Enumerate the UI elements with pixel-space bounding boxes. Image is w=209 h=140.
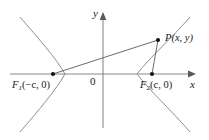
- segment-f2-p: [152, 40, 158, 74]
- focus-left-point: [51, 72, 55, 76]
- focus-right-point: [150, 72, 154, 76]
- segment-f1-p: [53, 40, 158, 74]
- y-axis-label: y: [93, 8, 98, 19]
- x-axis-label: x: [190, 79, 195, 90]
- focus-left-label: F1(−c, 0): [12, 80, 50, 92]
- y-axis-arrow-icon: [100, 12, 107, 20]
- origin-label: 0: [90, 76, 96, 87]
- x-axis-arrow-icon: [188, 71, 196, 78]
- point-p-coords: (x, y): [171, 32, 193, 43]
- hyperbola-figure: y x 0 F1(−c, 0) F2(c, 0) P(x, y): [0, 0, 209, 140]
- focus-right-label: F2(c, 0): [140, 80, 172, 92]
- figure-canvas: [0, 0, 209, 140]
- point-p-label: P(x, y): [165, 33, 193, 44]
- y-axis-group: [100, 12, 107, 128]
- point-p-marker: [156, 38, 160, 42]
- focus-right-coords: (c, 0): [150, 79, 172, 90]
- focus-left-coords: (−c, 0): [22, 79, 50, 90]
